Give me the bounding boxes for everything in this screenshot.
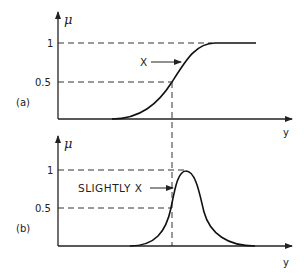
panel-b: μ y 1 0.5 (b) SLIGHTLY X	[16, 136, 292, 268]
panel-a: μ y 1 0.5 (a) X	[16, 12, 292, 138]
panel-a-y-label: y	[283, 127, 289, 138]
panel-b-slightly-x-label: SLIGHTLY X	[78, 182, 142, 194]
fuzzy-membership-diagram: μ y 1 0.5 (a) X μ y 1 0.5 (b)	[0, 0, 304, 278]
panel-b-tick-1: 1	[47, 165, 53, 176]
panel-b-label: (b)	[16, 223, 30, 234]
panel-b-tick-0-5: 0.5	[35, 203, 51, 214]
panel-a-tick-1: 1	[47, 38, 53, 49]
panel-a-mu-label: μ	[64, 12, 72, 27]
panel-a-s-curve	[112, 43, 256, 119]
panel-b-mu-label: μ	[64, 136, 72, 151]
panel-a-label: (a)	[16, 97, 30, 108]
panel-b-y-label: y	[283, 257, 289, 268]
panel-a-x-label: X	[140, 56, 148, 68]
panel-a-tick-0-5: 0.5	[35, 77, 51, 88]
